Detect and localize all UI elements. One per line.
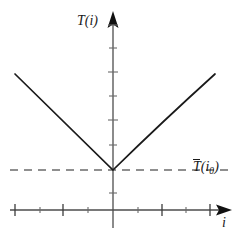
level-line-label-arg-close: )	[214, 159, 219, 174]
y-axis-label: T(i)	[77, 14, 98, 28]
plot-canvas	[0, 0, 241, 236]
level-line-label-overbar-T: T	[193, 160, 201, 174]
x-axis-label: i	[222, 216, 226, 230]
cost-curve	[15, 74, 215, 170]
figure-container: T(i) i T(i0)	[0, 0, 241, 236]
level-line-label: T(i0)	[193, 160, 219, 174]
